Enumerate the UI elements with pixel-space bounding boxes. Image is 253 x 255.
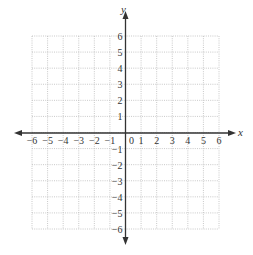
x-tick-label: −3 xyxy=(73,135,84,146)
y-tick-label: 1 xyxy=(118,111,123,122)
x-axis-left-arrow-icon xyxy=(14,130,22,136)
x-tick-label: −2 xyxy=(89,135,100,146)
x-tick-label: 0 xyxy=(129,135,134,146)
x-tick-label: 1 xyxy=(139,135,144,146)
x-tick-label: −5 xyxy=(42,135,53,146)
y-tick-label: 2 xyxy=(118,95,123,106)
x-tick-label: 3 xyxy=(170,135,175,146)
x-tick-label: −6 xyxy=(27,135,38,146)
axes: x y xyxy=(14,3,243,245)
y-tick-label: 3 xyxy=(118,79,123,90)
x-tick-label: 4 xyxy=(185,135,190,146)
y-tick-label: −5 xyxy=(112,208,123,219)
y-tick-label: −4 xyxy=(112,192,123,203)
x-axis-right-arrow-icon xyxy=(228,130,236,136)
coordinate-plane: x y −6−5−4−3−2−10123456123456−1−2−3−4−5−… xyxy=(0,0,253,255)
y-tick-label: −6 xyxy=(112,224,123,235)
y-tick-label: −1 xyxy=(112,144,123,155)
x-tick-label: 2 xyxy=(154,135,159,146)
x-tick-label: −4 xyxy=(58,135,69,146)
y-axis-label: y xyxy=(120,3,126,15)
y-tick-label: 4 xyxy=(118,63,123,74)
y-tick-label: 6 xyxy=(118,31,123,42)
y-tick-label: −3 xyxy=(112,176,123,187)
x-tick-label: 5 xyxy=(201,135,206,146)
x-axis-label: x xyxy=(237,126,243,138)
y-tick-label: 5 xyxy=(118,47,123,58)
x-tick-label: 6 xyxy=(217,135,222,146)
y-tick-label: −2 xyxy=(112,160,123,171)
y-axis-down-arrow-icon xyxy=(123,237,129,245)
